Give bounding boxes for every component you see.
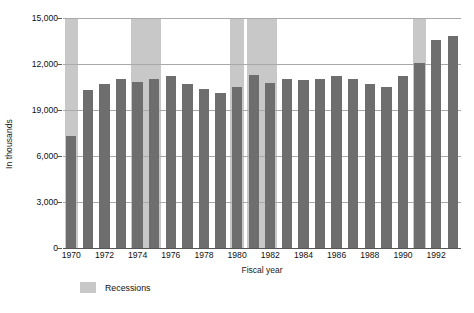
x-tick-label-1976: 1976 [161, 251, 180, 260]
plot-area [63, 18, 461, 248]
y-axis-tick-marks [0, 18, 63, 248]
bar-1970 [66, 136, 76, 248]
x-tick-label-1978: 1978 [194, 251, 213, 260]
bar-1983 [282, 79, 292, 248]
bar-1980 [232, 87, 242, 248]
bar-1985 [315, 79, 325, 248]
x-tick-label-1986: 1986 [327, 251, 346, 260]
bar-1981 [249, 75, 259, 248]
x-tick-label-1990: 1990 [393, 251, 412, 260]
y-tick-mark-9000 [57, 110, 62, 111]
bar-1991 [414, 63, 424, 248]
gridline-12000 [63, 64, 461, 65]
bar-1988 [365, 84, 375, 248]
y-tick-mark-3000 [57, 202, 62, 203]
bar-1976 [166, 76, 176, 248]
bar-1993 [448, 36, 458, 248]
bar-1992 [431, 40, 441, 248]
bar-chart-figure: In thousands 03,0006,00019,00012,00015,0… [0, 0, 474, 313]
bar-1984 [298, 80, 308, 248]
bar-1973 [116, 79, 126, 248]
x-tick-label-1972: 1972 [95, 251, 114, 260]
bar-1977 [182, 84, 192, 248]
legend-swatch-recessions [80, 282, 96, 293]
x-tick-label-1992: 1992 [427, 251, 446, 260]
bar-1989 [381, 87, 391, 248]
y-tick-mark-15000 [57, 18, 62, 19]
y-tick-mark-12000 [57, 64, 62, 65]
x-tick-label-1970: 1970 [62, 251, 81, 260]
x-tick-label-1980: 1980 [228, 251, 247, 260]
y-tick-mark-0 [57, 248, 62, 249]
y-tick-mark-6000 [57, 156, 62, 157]
x-tick-label-1984: 1984 [294, 251, 313, 260]
x-axis-tick-labels: 1970197219741976197819801982198419861988… [63, 251, 461, 265]
bar-1987 [348, 79, 358, 248]
bar-1979 [215, 93, 225, 248]
bar-1972 [99, 84, 109, 248]
bar-1990 [398, 76, 408, 248]
bar-1978 [199, 89, 209, 248]
bar-1986 [331, 76, 341, 248]
x-axis-title: Fiscal year [63, 265, 461, 275]
x-tick-label-1974: 1974 [128, 251, 147, 260]
chart-legend: Recessions [80, 282, 150, 293]
x-tick-label-1982: 1982 [261, 251, 280, 260]
legend-label-recessions: Recessions [105, 283, 150, 293]
gridline-0 [63, 248, 461, 249]
bar-1974 [132, 82, 142, 248]
bar-1971 [83, 90, 93, 248]
gridline-15000 [63, 18, 461, 19]
bar-1982 [265, 83, 275, 248]
bar-1975 [149, 79, 159, 248]
x-tick-label-1988: 1988 [360, 251, 379, 260]
